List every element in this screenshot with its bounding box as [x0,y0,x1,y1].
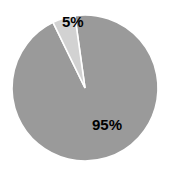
pie-label-majority: 95% [92,117,122,132]
pie-chart-canvas [0,0,170,170]
pie-chart-figure: 5% 95% [0,0,170,170]
pie-label-minority: 5% [62,14,84,29]
